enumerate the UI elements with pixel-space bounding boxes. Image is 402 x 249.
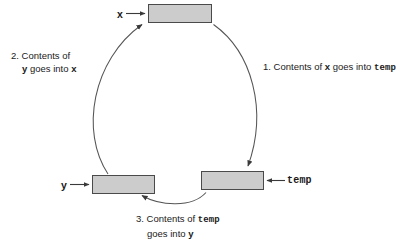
step-1-number: 1. (263, 61, 271, 72)
step-1-code-temp: temp (374, 63, 396, 73)
step-3-code-temp: temp (198, 215, 220, 225)
step-3-var-y: y (188, 228, 193, 239)
step-3-number: 3. (136, 213, 144, 224)
step-caption-3: 3. Contents of temp goes into y (136, 212, 220, 240)
step-3-text-b: goes into (147, 228, 188, 239)
step-2-text-a: Contents of (19, 50, 70, 61)
step-3-line-1: 3. Contents of temp (136, 212, 220, 227)
variable-box-y (92, 175, 155, 194)
step-2-line-2: y goes into x (11, 62, 76, 75)
step-2-var-x: x (71, 63, 76, 74)
step-3-line-2: goes into y (136, 227, 220, 240)
step-3-text-a: Contents of (144, 213, 198, 224)
step-caption-2: 2. Contents of y goes into x (11, 49, 76, 75)
step-2-line-1: 2. Contents of (11, 49, 76, 62)
step-2-number: 2. (11, 50, 19, 61)
step-2-text-b: goes into (27, 63, 71, 74)
arrow-x-to-temp (214, 25, 257, 167)
variable-label-temp: temp (287, 176, 312, 186)
variable-box-temp (201, 171, 264, 190)
variable-box-x (148, 4, 212, 23)
step-caption-1: 1. Contents of x goes into temp (263, 60, 396, 75)
variable-label-x: x (117, 9, 123, 20)
swap-variables-diagram: x y temp 1. Contents of x goes into temp… (0, 0, 402, 249)
arrow-temp-to-y (142, 193, 206, 204)
variable-label-y: y (61, 180, 67, 191)
arrow-y-to-x (93, 25, 142, 175)
step-1-text-a: Contents of (271, 61, 325, 72)
step-1-text-b: goes into (330, 61, 374, 72)
